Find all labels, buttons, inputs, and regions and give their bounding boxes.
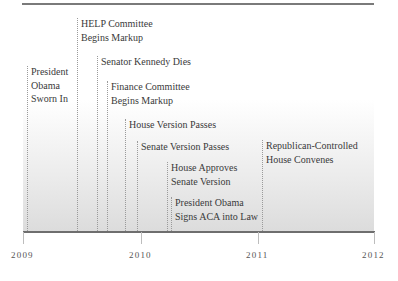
- event-label-line: House Convenes: [266, 153, 358, 167]
- event-label: Finance CommitteeBegins Markup: [111, 80, 190, 107]
- event-label-line: Sworn In: [31, 92, 68, 106]
- event-label-line: President: [31, 65, 68, 79]
- event-label-line: House Approves: [171, 161, 237, 175]
- event-label-line: Republican-Controlled: [266, 139, 358, 153]
- event-marker-line: [137, 141, 138, 231]
- event-marker-line: [125, 119, 126, 231]
- event-marker-line: [167, 162, 168, 231]
- event-marker-line: [77, 18, 78, 231]
- event-label: Senator Kennedy Dies: [101, 55, 191, 69]
- event-label-line: Senate Version: [171, 175, 237, 189]
- event-marker-line: [107, 81, 108, 231]
- event-label: President ObamaSigns ACA into Law: [175, 196, 258, 223]
- event-marker-line: [97, 56, 98, 231]
- timeline-axis: [23, 231, 375, 233]
- year-label: 2012: [362, 250, 385, 260]
- event-label-line: Finance Committee: [111, 80, 190, 94]
- year-tick: [23, 232, 24, 244]
- event-label-line: House Version Passes: [129, 118, 216, 132]
- event-label: House ApprovesSenate Version: [171, 161, 237, 188]
- event-label: Republican-ControlledHouse Convenes: [266, 139, 358, 166]
- year-label: 2010: [129, 250, 152, 260]
- event-marker-line: [27, 66, 28, 231]
- event-label-line: Begins Markup: [111, 94, 190, 108]
- event-label-line: Senator Kennedy Dies: [101, 55, 191, 69]
- year-label: 2011: [246, 250, 268, 260]
- event-label-line: Obama: [31, 79, 68, 93]
- event-marker-line: [262, 140, 263, 231]
- event-label-line: Senate Version Passes: [141, 140, 229, 154]
- year-tick: [374, 232, 375, 244]
- event-label: HELP CommitteeBegins Markup: [81, 17, 153, 44]
- event-label: Senate Version Passes: [141, 140, 229, 154]
- event-label: PresidentObamaSworn In: [31, 65, 68, 106]
- year-tick: [258, 232, 259, 244]
- event-label-line: Signs ACA into Law: [175, 210, 258, 224]
- year-label: 2009: [11, 250, 34, 260]
- event-label-line: Begins Markup: [81, 31, 153, 45]
- event-label: House Version Passes: [129, 118, 216, 132]
- event-label-line: HELP Committee: [81, 17, 153, 31]
- year-tick: [141, 232, 142, 244]
- top-rule: [22, 3, 374, 5]
- event-marker-line: [171, 197, 172, 231]
- event-label-line: President Obama: [175, 196, 258, 210]
